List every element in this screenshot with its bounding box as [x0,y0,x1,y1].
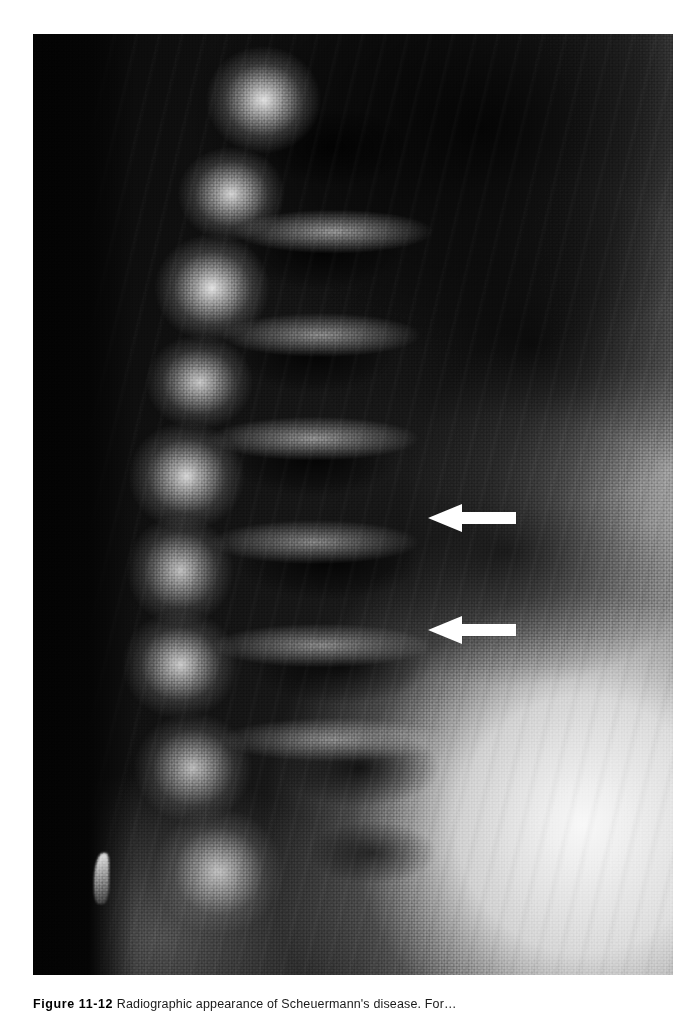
figure-caption: Figure 11-12 Radiographic appearance of … [33,996,673,1014]
film-grain-texture [33,34,673,975]
radiograph-image [33,34,673,975]
figure-caption-line: Figure 11-12 Radiographic appearance of … [33,996,673,1013]
figure-number-label: Figure 11-12 [33,997,113,1011]
figure-page: Figure 11-12 Radiographic appearance of … [0,0,698,1014]
figure-caption-body: Radiographic appearance of Scheuermann's… [117,997,457,1011]
